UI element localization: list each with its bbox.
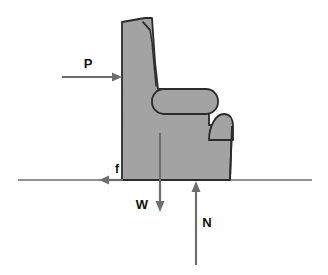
diagram-canvas: P f W N: [0, 0, 328, 275]
force-w-label: W: [136, 197, 149, 212]
force-vector-n: N: [192, 181, 212, 265]
force-p-label: P: [84, 56, 93, 71]
force-vector-p: P: [62, 56, 122, 82]
free-body-diagram-figure: P f W N: [0, 0, 328, 275]
force-n-arrowhead: [192, 181, 201, 192]
force-vector-f: f: [99, 162, 123, 185]
force-f-arrowhead: [99, 176, 109, 185]
armrest: [152, 89, 218, 114]
force-w-arrowhead: [156, 201, 165, 212]
armrest-front-end: [209, 114, 233, 140]
chair-body: [122, 18, 233, 180]
force-f-label: f: [115, 162, 120, 176]
force-p-arrowhead: [112, 73, 122, 82]
force-n-label: N: [202, 215, 211, 230]
